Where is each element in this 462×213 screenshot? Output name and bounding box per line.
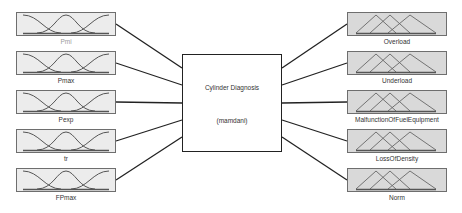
fis-diagram: Pmi Pmax Pexp (0, 0, 462, 213)
connector-output-2 (282, 63, 347, 85)
output-label: LossOfDensity (347, 155, 447, 163)
connector-input-4 (116, 120, 182, 141)
membership-functions-icon (17, 169, 115, 191)
output-mf-plot-underload[interactable] (347, 51, 447, 75)
connector-input-2 (116, 63, 182, 85)
membership-functions-icon (17, 130, 115, 152)
input-mf-plot-pexp[interactable] (16, 90, 116, 114)
system-name: Cylinder Diagnosis (183, 84, 281, 91)
fis-system-block[interactable]: Cylinder Diagnosis (mamdani) (182, 54, 282, 152)
output-label: MalfunctionOfFuelEquipment (347, 116, 447, 124)
connector-input-5 (116, 137, 182, 180)
connector-output-3 (282, 102, 347, 103)
input-mf-plot-fpmax[interactable] (16, 168, 116, 192)
output-mf-plot-lossofdensity[interactable] (347, 129, 447, 153)
membership-functions-icon (348, 52, 446, 74)
connector-output-1 (282, 24, 347, 68)
connector-output-5 (282, 137, 347, 180)
connector-output-4 (282, 120, 347, 141)
output-mf-plot-overload[interactable] (347, 12, 447, 36)
input-mf-plot-pmax[interactable] (16, 51, 116, 75)
input-label: FPmax (16, 194, 116, 202)
input-mf-plot-tr[interactable] (16, 129, 116, 153)
input-mf-plot-pmi[interactable] (16, 12, 116, 36)
membership-functions-icon (17, 13, 115, 35)
output-label: Underload (347, 77, 447, 85)
input-label: Pmax (16, 77, 116, 85)
membership-functions-icon (348, 91, 446, 113)
output-mf-plot-malfunction[interactable] (347, 90, 447, 114)
membership-functions-icon (348, 169, 446, 191)
connector-input-3 (116, 102, 182, 103)
input-label: tr (16, 155, 116, 163)
membership-functions-icon (348, 130, 446, 152)
membership-functions-icon (348, 13, 446, 35)
output-label: Norm (347, 194, 447, 202)
system-method: (mamdani) (183, 117, 281, 124)
input-label: Pexp (16, 116, 116, 124)
output-mf-plot-norm[interactable] (347, 168, 447, 192)
connector-input-1 (116, 24, 182, 68)
input-label: Pmi (16, 38, 116, 46)
membership-functions-icon (17, 91, 115, 113)
membership-functions-icon (17, 52, 115, 74)
output-label: Overload (347, 38, 447, 46)
